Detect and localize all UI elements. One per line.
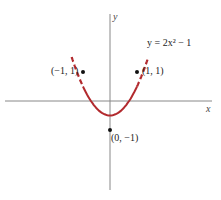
point-label-1-1: (1, 1) [142,65,164,77]
x-axis-label: x [205,103,211,114]
point-neg1-1 [81,70,85,74]
y-axis-label: y [112,11,118,22]
point-1-1 [135,70,139,74]
point-label-0-neg1: (0, −1) [111,132,138,144]
parabola-plot: x y (−1, 1) (1, 1) (0, −1) y = 2x² − 1 [0,0,221,200]
point-label-neg1-1: (−1, 1) [51,65,78,77]
equation-label: y = 2x² − 1 [147,37,191,48]
